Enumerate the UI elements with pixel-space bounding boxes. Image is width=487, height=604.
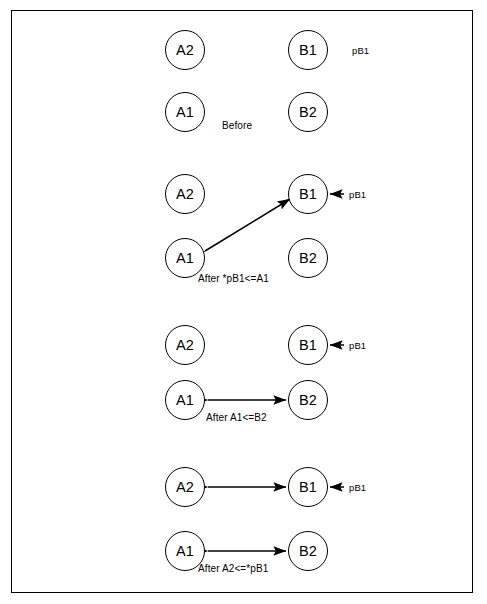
node-b1-panel-step3: B1 xyxy=(288,467,328,507)
node-label: A2 xyxy=(176,337,194,353)
node-label: A1 xyxy=(176,250,194,266)
node-a1-panel-step1: A1 xyxy=(165,238,205,278)
node-label: B2 xyxy=(299,104,317,120)
node-label: A2 xyxy=(176,42,194,58)
node-a2-panel-step2: A2 xyxy=(165,325,205,365)
caption-panel-step3: After A2<=*pB1 xyxy=(198,563,268,574)
node-label: A1 xyxy=(176,104,194,120)
diagram-border xyxy=(11,10,473,593)
node-b2-panel-step3: B2 xyxy=(288,531,328,571)
node-label: A2 xyxy=(176,479,194,495)
node-b1-panel-step1: B1 xyxy=(288,174,328,214)
pointer-label-pb1-panel-step1: pB1 xyxy=(349,189,366,200)
node-b2-panel-step1: B2 xyxy=(288,238,328,278)
pointer-label-pb1-panel-before: pB1 xyxy=(352,45,369,56)
node-a1-panel-before: A1 xyxy=(165,92,205,132)
pointer-label-pb1-panel-step3: pB1 xyxy=(349,482,366,493)
node-label: B2 xyxy=(299,392,317,408)
node-label: B2 xyxy=(299,543,317,559)
node-b1-panel-before: B1 xyxy=(288,30,328,70)
caption-panel-before: Before xyxy=(222,120,252,131)
node-label: B1 xyxy=(299,42,317,58)
node-label: A2 xyxy=(176,186,194,202)
node-label: B1 xyxy=(299,337,317,353)
node-label: B1 xyxy=(299,186,317,202)
node-label: B1 xyxy=(299,479,317,495)
node-b2-panel-step2: B2 xyxy=(288,380,328,420)
node-label: B2 xyxy=(299,250,317,266)
node-a2-panel-step1: A2 xyxy=(165,174,205,214)
node-a1-panel-step2: A1 xyxy=(165,380,205,420)
node-label: A1 xyxy=(176,392,194,408)
node-label: A1 xyxy=(176,543,194,559)
caption-panel-step1: After *pB1<=A1 xyxy=(198,273,269,284)
diagram-canvas: A2 B1 pB1 A1 B2 Before A2 B1 pB1 A1 B2 A… xyxy=(0,0,487,604)
node-a2-panel-before: A2 xyxy=(165,30,205,70)
node-a2-panel-step3: A2 xyxy=(165,467,205,507)
caption-panel-step2: After A1<=B2 xyxy=(206,412,267,423)
node-b1-panel-step2: B1 xyxy=(288,325,328,365)
pointer-label-pb1-panel-step2: pB1 xyxy=(349,340,366,351)
node-b2-panel-before: B2 xyxy=(288,92,328,132)
